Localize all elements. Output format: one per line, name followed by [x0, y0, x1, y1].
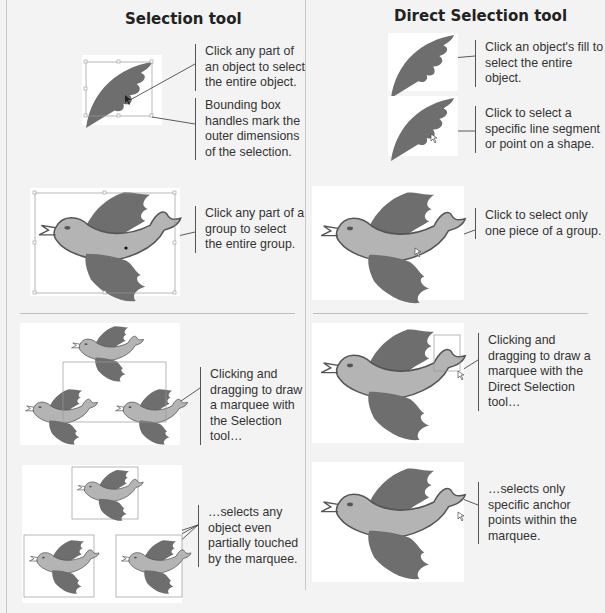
caption-click-fill: Click an object's fill to select the ent…	[475, 40, 605, 87]
wing-segment-illustration	[388, 96, 458, 156]
wing-fill-illustration	[388, 33, 458, 91]
bird-icon	[312, 186, 464, 300]
bird-piece-illustration	[312, 186, 464, 300]
bird-icon	[312, 462, 464, 582]
bird-group-icon	[22, 465, 182, 603]
caption-anchor-points: …selects only specific anchor points wit…	[478, 482, 603, 544]
wing-icon	[388, 96, 458, 156]
caption-click-segment: Click to select a specific line segment …	[475, 106, 605, 153]
bird-group-icon	[20, 323, 180, 445]
caption-click-piece: Click to select only one piece of a grou…	[475, 208, 605, 239]
caption-selects-any-object: …selects any object even partially touch…	[198, 505, 308, 567]
anchor-points-illustration	[312, 462, 464, 582]
group-illustration	[30, 188, 180, 296]
caption-click-group: Click any part of a group to select the …	[195, 206, 305, 253]
bird-icon	[30, 188, 180, 296]
caption-direct-marquee: Clicking and dragging to draw a marquee …	[478, 333, 603, 411]
caption-bounding-box: Bounding box handles mark the outer dime…	[195, 98, 305, 160]
caption-marquee-selection: Clicking and dragging to draw a marquee …	[200, 367, 305, 445]
caption-click-object: Click any part of an object to select th…	[195, 44, 305, 91]
direct-marquee-illustration	[312, 323, 464, 443]
selected-birds-illustration	[22, 465, 182, 603]
bird-icon	[312, 323, 464, 443]
wing-icon	[388, 33, 458, 91]
marquee-illustration	[20, 323, 180, 445]
